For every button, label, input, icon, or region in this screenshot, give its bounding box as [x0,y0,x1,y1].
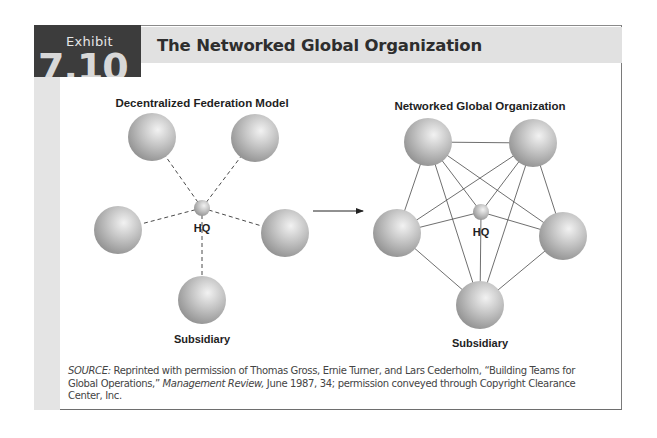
right-subsidiary-node-right [539,212,587,260]
left-subsidiary-node-top-left [128,113,176,161]
left-hq-node [194,200,210,216]
left-subsidiary-node-left [94,206,142,254]
right-subsidiary-node-left [373,209,421,257]
right-subsidiary-node-top-right [509,119,557,167]
right-hq-node [473,204,489,220]
source-citation: SOURCE: Reprinted with permission of Tho… [68,365,588,403]
right-diagram-title: Networked Global Organization [394,100,565,112]
right-nodes [373,118,587,329]
right-subsidiary-node-bottom [456,281,504,329]
left-subsidiary-node-right [261,209,309,257]
right-subsidiary-node-top-left [404,118,452,166]
left-subsidiary-node-bottom [178,276,226,324]
source-journal: Management Review, [163,378,264,389]
left-subsidiary-label: Subsidiary [174,333,231,345]
right-link-top-right-bottom [480,143,533,305]
right-subsidiary-label: Subsidiary [452,337,509,349]
right-hq-label: HQ [473,226,490,238]
left-diagram-title: Decentralized Federation Model [115,97,288,109]
left-subsidiary-node-top-right [231,114,279,162]
source-prefix: SOURCE: [68,365,111,376]
left-hq-label: HQ [194,222,211,234]
